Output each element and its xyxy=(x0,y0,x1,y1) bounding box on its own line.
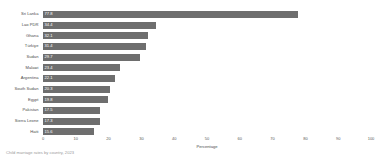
category-label-cell: Malawi xyxy=(0,62,41,73)
bar: 32.1 xyxy=(43,32,148,39)
bar-value-label: 77.8 xyxy=(45,12,53,16)
category-label-cell: Sudan xyxy=(0,52,41,63)
bar-row: 29.7 xyxy=(43,52,371,63)
category-label-cell: Argentina xyxy=(0,73,41,84)
bar-value-label: 34.4 xyxy=(45,23,53,27)
bar-value-label: 17.5 xyxy=(45,108,53,112)
category-label-cell: Haiti xyxy=(0,126,41,137)
category-label-cell: Sierra Leone xyxy=(0,116,41,127)
bar-value-label: 31.4 xyxy=(45,44,53,48)
x-axis-tick-label: 10 xyxy=(74,137,78,141)
bar-value-label: 15.6 xyxy=(45,130,53,134)
x-axis-tick-label: 70 xyxy=(270,137,274,141)
category-label: Sudan xyxy=(27,55,39,59)
bar: 17.5 xyxy=(43,107,100,114)
bar-rows: 77.834.432.131.429.723.422.120.319.817.5… xyxy=(43,9,371,137)
category-label: Argentina xyxy=(21,76,39,80)
category-label-cell: Ghana xyxy=(0,30,41,41)
x-axis-tick-label: 20 xyxy=(106,137,110,141)
category-label-cell: Lao PDR xyxy=(0,20,41,31)
x-axis-tick-label: 90 xyxy=(336,137,340,141)
x-axis-title: Percentage xyxy=(197,145,218,149)
bar-row: 17.3 xyxy=(43,116,371,127)
category-label: Lao PDR xyxy=(22,23,39,27)
category-label: Sierra Leone xyxy=(15,119,39,123)
category-label: Malawi xyxy=(26,66,39,70)
bar-row: 32.1 xyxy=(43,30,371,41)
category-label: Haiti xyxy=(30,130,38,134)
category-label-cell: Pakistan xyxy=(0,105,41,116)
bar-row: 22.1 xyxy=(43,73,371,84)
bar-row: 23.4 xyxy=(43,62,371,73)
bar: 19.8 xyxy=(43,96,108,103)
bar-value-label: 19.8 xyxy=(45,98,53,102)
bar-value-label: 17.3 xyxy=(45,119,53,123)
bar-row: 17.5 xyxy=(43,105,371,116)
bar: 34.4 xyxy=(43,22,156,29)
category-axis-labels: Sri LankaLao PDRGhanaTürkiyeSudanMalawiA… xyxy=(0,9,41,137)
bar-chart: Sri LankaLao PDRGhanaTürkiyeSudanMalawiA… xyxy=(0,0,380,161)
bar: 17.3 xyxy=(43,118,100,125)
x-axis-tick-label: 30 xyxy=(139,137,143,141)
category-label: Türkiye xyxy=(25,44,39,48)
bar-value-label: 29.7 xyxy=(45,55,53,59)
bar: 29.7 xyxy=(43,54,140,61)
bar: 23.4 xyxy=(43,64,120,71)
bar-value-label: 22.1 xyxy=(45,76,53,80)
x-axis-tick-label: 40 xyxy=(172,137,176,141)
x-axis-tick-label: 50 xyxy=(205,137,209,141)
bar-row: 34.4 xyxy=(43,20,371,31)
category-label-cell: Sri Lanka xyxy=(0,9,41,20)
category-label: Sri Lanka xyxy=(21,12,39,16)
category-label-cell: South Sudan xyxy=(0,84,41,95)
category-label: Ghana xyxy=(26,34,38,38)
category-label: Egypt xyxy=(28,98,39,102)
x-axis-tick-label: 100 xyxy=(368,137,375,141)
bar: 20.3 xyxy=(43,86,110,93)
bar-row: 31.4 xyxy=(43,41,371,52)
plot-area: 77.834.432.131.429.723.422.120.319.817.5… xyxy=(43,9,371,137)
bar: 31.4 xyxy=(43,43,146,50)
x-axis: Percentage 0102030405060708090100 xyxy=(43,137,371,149)
x-axis-tick-label: 60 xyxy=(238,137,242,141)
x-axis-tick-label: 0 xyxy=(42,137,44,141)
bar: 22.1 xyxy=(43,75,115,82)
bar-value-label: 20.3 xyxy=(45,87,53,91)
category-label: South Sudan xyxy=(14,87,38,91)
bar-value-label: 32.1 xyxy=(45,34,53,38)
x-axis-tick-label: 80 xyxy=(303,137,307,141)
category-label-cell: Türkiye xyxy=(0,41,41,52)
category-label-cell: Egypt xyxy=(0,94,41,105)
bar-value-label: 23.4 xyxy=(45,66,53,70)
bar-row: 77.8 xyxy=(43,9,371,20)
bar: 15.6 xyxy=(43,128,94,135)
bar-row: 20.3 xyxy=(43,84,371,95)
chart-footnote: Child marriage rates by country, 2023 xyxy=(6,151,74,156)
bar: 77.8 xyxy=(43,11,298,18)
category-label: Pakistan xyxy=(23,108,39,112)
bar-row: 19.8 xyxy=(43,94,371,105)
